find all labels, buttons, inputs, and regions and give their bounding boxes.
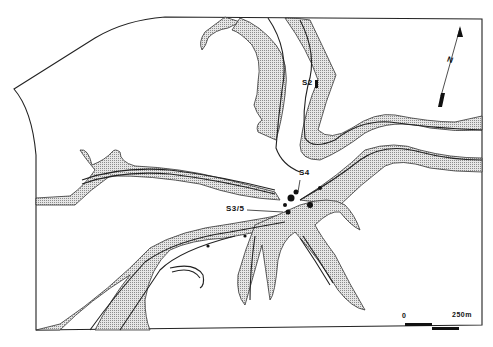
bank-top-inlet <box>201 17 240 50</box>
site-label-s4: S4 <box>299 168 310 177</box>
north-arrow-icon: N <box>438 26 463 107</box>
site-label-s3-5: S3/5 <box>226 204 244 213</box>
site-label-s2: S2 <box>302 78 313 87</box>
scale-bar <box>405 323 459 330</box>
svg-text:N: N <box>446 55 455 66</box>
bank-west-creek <box>36 150 280 205</box>
bank-south-fingers <box>238 200 365 310</box>
feature-curve <box>170 266 204 288</box>
bank-right-main <box>285 18 482 160</box>
site-map: N <box>0 0 493 347</box>
scale-start-label: 0 <box>402 312 406 319</box>
scale-end-label: 250m <box>452 311 472 318</box>
